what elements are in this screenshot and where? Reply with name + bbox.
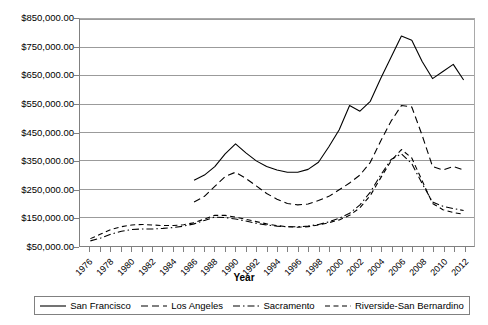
chart-legend: San FranciscoLos AngelesSacramentoRivers… <box>34 296 470 315</box>
legend-item[interactable]: Los Angeles <box>141 300 223 311</box>
x-axis-tick <box>267 247 268 252</box>
legend-label: San Francisco <box>70 300 131 311</box>
y-axis-tick-label: $250,000.00 <box>0 185 74 195</box>
x-axis-tick <box>256 247 257 252</box>
x-axis-tick <box>173 247 174 252</box>
x-axis-tick <box>277 247 278 252</box>
x-axis-tick <box>392 247 393 252</box>
x-axis-tick <box>371 247 372 252</box>
y-axis-tick-label: $650,000.00 <box>0 70 74 80</box>
x-axis-tick <box>225 247 226 252</box>
line-chart: $850,000.00$750,000.00$650,000.00$550,00… <box>0 0 488 325</box>
x-axis-tick <box>152 247 153 252</box>
x-axis-tick <box>214 247 215 252</box>
x-axis-tick <box>142 247 143 252</box>
y-axis-tick-label: $350,000.00 <box>0 156 74 166</box>
y-axis-tick-label: $450,000.00 <box>0 128 74 138</box>
legend-label: Riverside-San Bernardino <box>355 300 464 311</box>
x-axis-tick <box>308 247 309 252</box>
gridlines <box>80 19 474 246</box>
legend-line-swatch <box>233 302 259 310</box>
x-axis-tick <box>350 247 351 252</box>
x-axis-tick <box>235 247 236 252</box>
x-axis-tick <box>381 247 382 252</box>
x-axis-labels: 1976197819801982198419861988199019921994… <box>0 0 488 40</box>
legend-line-swatch <box>141 302 167 310</box>
plot-area <box>79 18 475 247</box>
x-axis-tick <box>89 247 90 252</box>
x-axis-tick <box>204 247 205 252</box>
y-axis-tick-label: $50,000.00 <box>0 242 74 252</box>
x-axis-tick <box>100 247 101 252</box>
x-axis-tick <box>329 247 330 252</box>
x-axis-tick <box>121 247 122 252</box>
x-axis-tick <box>444 247 445 252</box>
x-axis-tick <box>162 247 163 252</box>
x-axis-tick <box>194 247 195 252</box>
x-axis-tick <box>287 247 288 252</box>
x-axis-tick <box>360 247 361 252</box>
series-line <box>194 36 464 180</box>
legend-line-swatch <box>40 302 66 310</box>
series-line <box>90 150 463 239</box>
x-axis-tick <box>298 247 299 252</box>
x-axis-tick <box>319 247 320 252</box>
legend-line-swatch <box>325 302 351 310</box>
x-axis-tick <box>340 247 341 252</box>
x-axis-title: Year <box>0 272 488 283</box>
x-axis-tick <box>183 247 184 252</box>
x-axis-tick <box>412 247 413 252</box>
x-axis-tick <box>402 247 403 252</box>
series-line <box>194 106 464 205</box>
legend-item[interactable]: San Francisco <box>40 300 131 311</box>
legend-label: Sacramento <box>263 300 314 311</box>
y-axis-tick-label: $750,000.00 <box>0 42 74 52</box>
series-line <box>90 154 463 241</box>
legend-label: Los Angeles <box>171 300 223 311</box>
x-axis-tick <box>454 247 455 252</box>
x-axis-tick <box>246 247 247 252</box>
x-axis-tick <box>465 247 466 252</box>
x-axis-tick <box>110 247 111 252</box>
legend-item[interactable]: Sacramento <box>233 300 314 311</box>
series-lines <box>90 36 463 241</box>
y-axis-tick-label: $150,000.00 <box>0 213 74 223</box>
legend-item[interactable]: Riverside-San Bernardino <box>325 300 464 311</box>
plot-canvas <box>80 19 474 246</box>
x-axis-tick <box>433 247 434 252</box>
x-axis-tick <box>131 247 132 252</box>
y-axis-tick-label: $550,000.00 <box>0 99 74 109</box>
x-axis-ticks <box>79 247 475 253</box>
x-axis-tick <box>423 247 424 252</box>
